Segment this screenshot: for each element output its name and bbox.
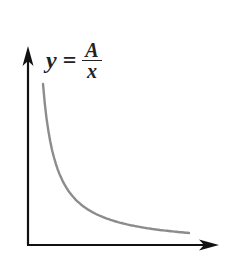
hyperbola-curve	[43, 84, 189, 233]
y-axis	[23, 46, 34, 245]
equation-equals: =	[63, 47, 77, 74]
equation-fraction: A x	[82, 40, 101, 81]
equation-numerator: A	[82, 40, 101, 61]
x-axis	[27, 240, 219, 251]
hyperbola-chart	[0, 0, 228, 280]
equation-denominator: x	[87, 61, 97, 81]
equation-lhs: y	[46, 47, 57, 74]
equation-label: y = A x	[46, 40, 102, 81]
